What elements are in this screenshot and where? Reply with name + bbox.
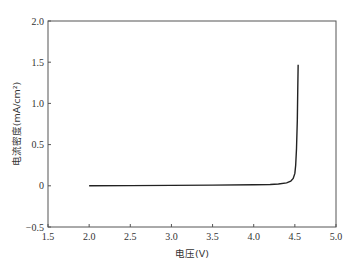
x-tick-label: 4.5	[289, 231, 302, 242]
x-tick-label: 4.0	[247, 231, 260, 242]
y-tick-label: 1.5	[32, 57, 45, 68]
x-tick-label: 3.5	[206, 231, 219, 242]
y-tick-label: 1.0	[32, 98, 45, 109]
y-tick-label: 0	[39, 180, 44, 191]
y-tick-label: −0.5	[26, 222, 44, 233]
y-axis-label: 电流密度(mA/cm²)	[11, 82, 22, 167]
x-tick-label: 2.5	[124, 231, 137, 242]
y-axis-ticks: −0.500.51.01.52.0	[26, 16, 51, 233]
x-tick-label: 5.0	[330, 231, 343, 242]
x-tick-label: 2.0	[83, 231, 96, 242]
jv-curve	[89, 65, 298, 186]
plot-frame	[48, 21, 336, 227]
y-tick-label: 2.0	[32, 16, 45, 27]
x-axis-label: 电压(V)	[175, 248, 209, 259]
y-tick-label: 0.5	[32, 139, 45, 150]
x-tick-label: 3.0	[165, 231, 178, 242]
jv-line-chart: 1.52.02.53.03.54.04.55.0 −0.500.51.01.52…	[0, 0, 358, 268]
x-tick-label: 1.5	[42, 231, 55, 242]
